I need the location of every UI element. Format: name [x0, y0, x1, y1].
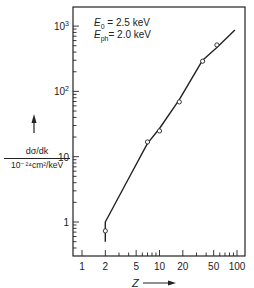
data-series [103, 30, 235, 242]
y-tick-label: 103 [54, 20, 69, 32]
x-tick-label: 50 [208, 261, 220, 272]
data-point-circle [177, 100, 181, 104]
x-axis-ticks: 125102050100 [79, 250, 246, 272]
x-tick-label: 1 [79, 261, 85, 272]
x-tick-label: 20 [177, 261, 189, 272]
x-tick-label: 100 [229, 261, 246, 272]
y-tick-label: 102 [54, 85, 69, 97]
data-point-circle [157, 129, 161, 133]
e0-value: = 2.5 keV [105, 17, 150, 28]
y-axis-arrow-icon [32, 114, 37, 133]
annotation-eph: Eph= 2.0 keV [94, 29, 151, 45]
x-tick-label: 2 [103, 261, 109, 272]
data-point-circle [201, 59, 205, 63]
data-point-circle [215, 43, 219, 47]
x-axis-label: Z [131, 277, 140, 288]
y-axis-label-numerator: dσ/dk [4, 146, 70, 159]
y-tick-label: 1 [63, 217, 69, 228]
y-axis-label-denominator: 10⁻²⁴cm²/keV [4, 159, 70, 171]
data-point-circle [103, 229, 107, 233]
eph-symbol: E [94, 29, 101, 40]
eph-value: = 2.0 keV [108, 29, 151, 40]
y-axis-label: dσ/dk 10⁻²⁴cm²/keV [4, 146, 70, 171]
e0-symbol: E [94, 17, 101, 28]
x-tick-label: 5 [133, 261, 139, 272]
y-axis-ticks: 110102103 [54, 20, 79, 248]
x-axis-arrow-icon [143, 281, 176, 286]
data-point-circle [145, 140, 149, 144]
theory-curve [105, 30, 235, 242]
x-tick-label: 10 [154, 261, 166, 272]
